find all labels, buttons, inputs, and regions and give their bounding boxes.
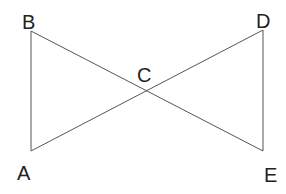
point-label-c: C [137, 64, 151, 86]
point-label-b: B [22, 11, 35, 33]
bowtie-triangles-diagram: B D C A E [0, 0, 286, 194]
point-label-e: E [264, 164, 277, 186]
point-label-a: A [17, 162, 31, 184]
point-label-d: D [256, 10, 270, 32]
